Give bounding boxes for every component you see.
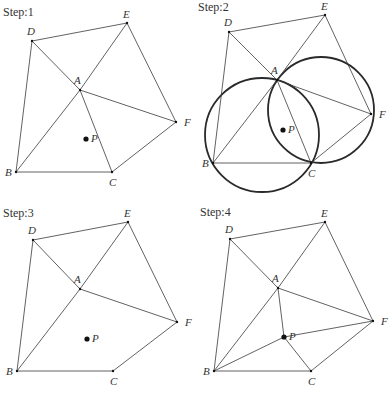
point-F [175,121,177,123]
edge-DB [213,32,229,163]
edge-CF [311,321,373,371]
edge-CF [311,114,371,163]
label-D: D [26,25,35,37]
point-D [31,40,33,42]
circumcircle-2 [268,57,374,163]
edge-CF [112,122,176,172]
label-C: C [308,167,316,179]
label-D: D [27,224,36,236]
edge-EA [278,222,325,288]
label-F: F [184,316,192,328]
edge-EA [80,222,128,289]
label-A: A [73,74,81,86]
point-P [84,336,89,341]
label-P: P [91,332,99,344]
step-3-panel: ABCDEFP [6,207,192,387]
label-P: P [90,132,98,144]
point-B [213,370,215,372]
edge-PB [214,337,284,371]
edge-PA [278,288,284,337]
edge-PF [284,321,373,337]
point-C [111,171,113,173]
edge-AB [16,90,80,172]
point-A [276,79,278,81]
delaunay-insertion-steps-diagram: Step:1 Step:2 Step:3 Step:4 ABCDEFP ABCD… [0,0,389,394]
label-F: F [378,108,386,120]
point-A [277,287,279,289]
point-D [32,239,34,241]
point-C [310,162,312,164]
step-3-title: Step:3 [3,206,34,220]
label-E: E [123,207,131,219]
label-A: A [73,273,81,285]
edge-DB [17,240,33,371]
edge-AB [213,80,277,163]
label-D: D [223,16,232,28]
edge-EF [127,23,176,122]
edge-AB [214,288,278,371]
point-D [228,31,230,33]
edge-EA [277,15,325,80]
point-A [79,89,81,91]
point-E [324,14,326,16]
edge-DA [32,41,80,90]
point-C [112,370,114,372]
point-E [324,221,326,223]
step-2-panel: ABCDEFP [202,0,386,192]
edge-DE [229,15,325,32]
label-F: F [380,315,388,327]
edge-EF [325,222,373,321]
label-B: B [202,157,209,169]
label-B: B [6,365,13,377]
point-F [370,113,372,115]
edge-DE [230,222,325,239]
point-F [176,321,178,323]
label-C: C [110,375,118,387]
edge-DE [33,222,128,240]
edge-DE [32,23,127,41]
label-P: P [287,123,295,135]
step-1-panel: ABCDEFP [5,8,191,188]
step-4-title: Step:4 [200,205,231,219]
step-1-title: Step:1 [3,5,34,19]
edge-DB [214,239,230,371]
edge-DA [33,240,80,289]
edge-EF [128,222,177,322]
label-E: E [320,0,328,12]
point-E [127,221,129,223]
edge-AF [277,80,371,114]
edge-PC [284,337,311,371]
point-P [83,136,88,141]
edge-CF [113,322,177,371]
point-P [280,127,285,132]
label-C: C [308,375,316,387]
point-F [372,320,374,322]
label-P: P [288,330,296,342]
step-4-panel: ABCDEFP [203,207,388,387]
edge-AC [277,80,311,163]
edge-AF [80,90,176,122]
label-D: D [224,223,233,235]
edge-AB [17,289,80,371]
circumcircle-1 [205,78,319,192]
point-B [15,171,17,173]
point-A [79,288,81,290]
edge-DA [230,239,278,288]
point-D [229,238,231,240]
edge-DB [16,41,32,172]
point-B [16,370,18,372]
label-B: B [203,365,210,377]
edge-EF [325,15,371,114]
edge-AF [278,288,373,321]
label-A: A [271,272,279,284]
edge-AC [80,90,112,172]
label-A: A [270,64,278,76]
point-B [212,162,214,164]
point-P [281,334,286,339]
label-F: F [183,116,191,128]
point-E [126,22,128,24]
label-E: E [320,207,328,219]
label-B: B [5,166,12,178]
step-2-title: Step:2 [198,0,229,14]
edge-EA [80,23,127,90]
